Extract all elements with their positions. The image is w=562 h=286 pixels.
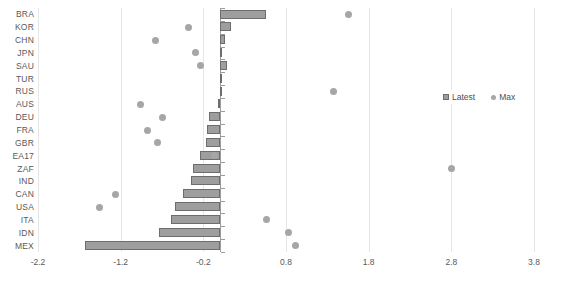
axis-tick: [221, 252, 225, 253]
y-axis-label-fra: FRA: [0, 125, 34, 135]
legend-entry-max[interactable]: Max: [491, 92, 515, 102]
dot-ea17[interactable]: [211, 152, 218, 159]
bar-row: [38, 111, 534, 124]
bar-row: [38, 136, 534, 149]
x-axis-tick-label: -0.2: [196, 256, 211, 268]
y-axis-label-rus: RUS: [0, 86, 34, 96]
bar-zaf[interactable]: [193, 164, 220, 173]
y-axis-label-bra: BRA: [0, 9, 34, 19]
dot-bra[interactable]: [345, 11, 352, 18]
bar-chn[interactable]: [220, 35, 225, 44]
y-axis-label-usa: USA: [0, 202, 34, 212]
gridline-3neg8: [534, 8, 535, 252]
x-axis-tick-label: 0.8: [280, 256, 292, 268]
x-axis-tick-label: 3.8: [528, 256, 540, 268]
bar-row: [38, 47, 534, 60]
dot-fra[interactable]: [144, 127, 151, 134]
bar-tur[interactable]: [220, 74, 222, 83]
bar-usa[interactable]: [175, 202, 220, 211]
y-axis-label-can: CAN: [0, 189, 34, 199]
bar-row: [38, 59, 534, 72]
bar-aus[interactable]: [218, 99, 220, 108]
x-axis-tick-label: 1.8: [363, 256, 375, 268]
bar-sau[interactable]: [220, 61, 227, 70]
bar-idn[interactable]: [159, 228, 220, 237]
dot-deu[interactable]: [159, 114, 166, 121]
bar-fra[interactable]: [207, 125, 220, 134]
x-axis-tick-label: 2.8: [445, 256, 457, 268]
bar-ind[interactable]: [191, 176, 220, 185]
bar-kor[interactable]: [220, 22, 232, 31]
bar-row: [38, 8, 534, 21]
bar-row: [38, 213, 534, 226]
y-axis-label-tur: TUR: [0, 74, 34, 84]
bar-row: [38, 175, 534, 188]
bar-row: [38, 239, 534, 252]
dot-chn[interactable]: [152, 37, 159, 44]
bar-row: [38, 124, 534, 137]
y-axis-label-idn: IDN: [0, 228, 34, 238]
y-axis-label-gbr: GBR: [0, 138, 34, 148]
dot-mex[interactable]: [292, 242, 299, 249]
y-axis-label-ea17: EA17: [0, 151, 34, 161]
y-axis-label-deu: DEU: [0, 112, 34, 122]
dot-zaf[interactable]: [448, 165, 455, 172]
y-axis-label-ind: IND: [0, 176, 34, 186]
bar-row: [38, 34, 534, 47]
dot-kor[interactable]: [185, 24, 192, 31]
bar-row: [38, 162, 534, 175]
bar-row: [38, 21, 534, 34]
dot-gbr[interactable]: [154, 139, 161, 146]
bar-ita[interactable]: [171, 215, 220, 224]
y-axis-label-aus: AUS: [0, 99, 34, 109]
bar-row: [38, 149, 534, 162]
bar-jpn[interactable]: [220, 48, 222, 57]
bar-mex[interactable]: [85, 241, 220, 250]
y-axis-label-chn: CHN: [0, 35, 34, 45]
x-axis-tick-label: -1.2: [113, 256, 128, 268]
bar-deu[interactable]: [209, 112, 220, 121]
dot-can[interactable]: [112, 191, 119, 198]
x-axis-tick-label: -2.2: [31, 256, 46, 268]
y-axis-label-zaf: ZAF: [0, 164, 34, 174]
bar-bra[interactable]: [220, 10, 266, 19]
y-axis-label-ita: ITA: [0, 215, 34, 225]
legend-swatch-dot-icon: [491, 95, 496, 100]
y-axis-label-kor: KOR: [0, 22, 34, 32]
bar-chart: BRAKORCHNJPNSAUTURRUSAUSDEUFRAGBREA17ZAF…: [0, 0, 562, 286]
legend-label-latest: Latest: [452, 92, 475, 102]
bar-row: [38, 201, 534, 214]
bar-gbr[interactable]: [206, 138, 220, 147]
dot-rus[interactable]: [330, 88, 337, 95]
y-axis-label-jpn: JPN: [0, 48, 34, 58]
dot-usa[interactable]: [96, 204, 103, 211]
x-axis-tick-labels: -2.2-1.2-0.20.81.82.83.8: [0, 256, 562, 274]
y-axis-label-mex: MEX: [0, 241, 34, 251]
legend-label-max: Max: [499, 92, 515, 102]
chart-legend: Latest Max: [441, 90, 517, 104]
bar-row: [38, 72, 534, 85]
bar-rus[interactable]: [220, 87, 222, 96]
y-axis-category-labels: BRAKORCHNJPNSAUTURRUSAUSDEUFRAGBREA17ZAF…: [0, 8, 34, 252]
legend-swatch-square-icon: [443, 94, 449, 100]
dot-aus[interactable]: [137, 101, 144, 108]
y-axis-label-sau: SAU: [0, 61, 34, 71]
bar-can[interactable]: [183, 189, 220, 198]
legend-entry-latest[interactable]: Latest: [443, 92, 475, 102]
plot-area: [38, 8, 534, 252]
